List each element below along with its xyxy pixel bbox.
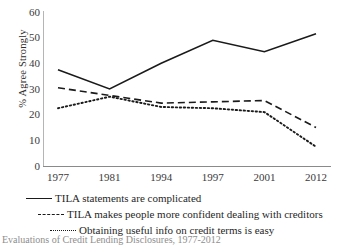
figure-caption: Evaluations of Credit Lending Disclosure… — [2, 234, 335, 245]
chart-legend: TILA statements are complicated TILA mak… — [26, 190, 326, 238]
y-tick-50: 50 — [14, 32, 40, 43]
y-tick-10: 10 — [14, 135, 40, 146]
x-tick-1977: 1977 — [47, 171, 69, 183]
series-container — [44, 12, 330, 166]
x-axis-line — [43, 166, 331, 167]
legend-label-1: TILA makes people more confident dealing… — [67, 208, 323, 220]
x-tick-2001: 2001 — [253, 171, 275, 183]
y-tick-0: 0 — [14, 161, 40, 172]
plot-area — [44, 12, 330, 166]
x-tick-2012: 2012 — [305, 171, 327, 183]
legend-item-1: TILA makes people more confident dealing… — [26, 206, 326, 222]
figure-line-chart: % Agree Strongly 0102030405060 197719811… — [0, 0, 337, 245]
y-tick-20: 20 — [14, 109, 40, 120]
series-line-0 — [58, 34, 316, 89]
y-tick-40: 40 — [14, 58, 40, 69]
x-tick-1981: 1981 — [99, 171, 121, 183]
legend-item-0: TILA statements are complicated — [26, 190, 326, 206]
legend-label-0: TILA statements are complicated — [55, 192, 201, 204]
legend-swatch-solid-line-icon — [26, 193, 52, 203]
x-tick-1994: 1994 — [150, 171, 172, 183]
x-tick-1997: 1997 — [202, 171, 224, 183]
series-line-2 — [58, 97, 316, 147]
y-tick-60: 60 — [14, 7, 40, 18]
legend-swatch-dashed-line-icon — [38, 209, 64, 219]
y-tick-30: 30 — [14, 84, 40, 95]
x-axis-tick-labels: 197719811994199720012012 — [44, 171, 330, 185]
